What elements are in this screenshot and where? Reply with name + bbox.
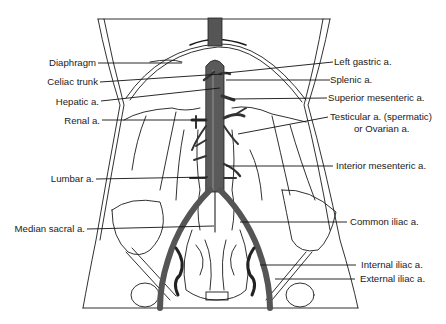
label-testicular-a: Testicular a. (spermatic) [330, 111, 432, 122]
label-splenic-a: Splenic a. [330, 74, 372, 85]
label-left-gastric-a: Left gastric a. [334, 56, 392, 67]
label-diaphragm: Diaphragm [49, 57, 96, 68]
common-iliac-right [220, 190, 270, 308]
label-superior-mesenteric-a: Superior mesenteric a. [328, 92, 425, 103]
abdominal-aorta [206, 60, 224, 192]
arterial-tree [160, 18, 270, 308]
label-external-iliac-a: External iliac a. [360, 273, 425, 284]
testicular-a-right [224, 126, 238, 144]
renal-a-right [224, 114, 244, 118]
common-iliac-left [160, 190, 210, 308]
label-lumbar-a: Lumbar a. [51, 173, 94, 184]
label-interior-mesenteric-a: Interior mesenteric a. [336, 160, 426, 171]
label-celiac-trunk: Celiac trunk [47, 76, 98, 87]
label-ovarian-a: or Ovarian a. [354, 123, 409, 134]
label-median-sacral-a: Median sacral a. [15, 223, 85, 234]
label-hepatic-a: Hepatic a. [56, 96, 99, 107]
label-common-iliac-a: Common iliac a. [350, 216, 419, 227]
label-internal-iliac-a: Internal iliac a. [361, 259, 423, 270]
aorta-upper [208, 18, 222, 46]
label-renal-a: Renal a. [64, 115, 100, 126]
testicular-a-left [192, 126, 206, 150]
